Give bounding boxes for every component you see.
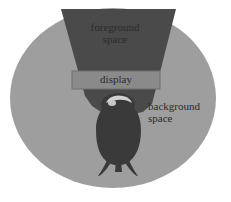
diagram-canvas — [0, 0, 231, 202]
display-rect[interactable] — [72, 71, 160, 89]
person-head-highlight-dot — [108, 100, 116, 106]
person-center-foot — [115, 160, 122, 172]
